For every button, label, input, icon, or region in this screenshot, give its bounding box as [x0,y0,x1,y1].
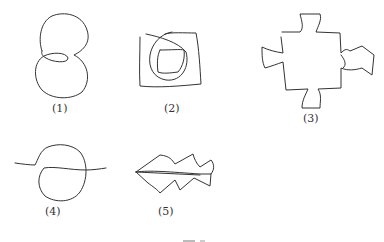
figure-1-label: (1) [52,102,68,115]
figure-1-drawing [35,14,88,98]
figure-4-drawing [15,145,106,201]
figure-3-drawing [262,14,374,108]
figure-2-drawing [140,32,201,87]
figure-3-label: (3) [303,112,319,125]
figure-5-label: (5) [158,205,174,218]
figure-2-label: (2) [164,102,180,115]
figure-5-drawing [136,154,214,193]
figure-4-label: (4) [45,205,61,218]
